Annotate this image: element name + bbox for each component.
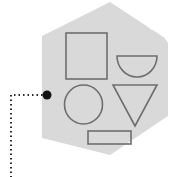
annotation-point-marker[interactable] bbox=[43, 91, 52, 100]
annotation-leader-line bbox=[11, 95, 47, 177]
diagram-svg bbox=[0, 0, 189, 177]
diagram-canvas bbox=[0, 0, 189, 177]
